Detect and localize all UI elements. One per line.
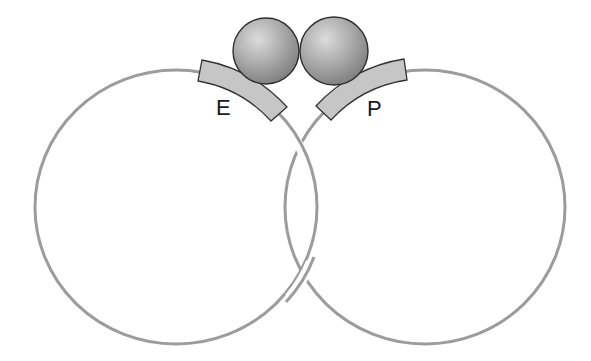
right-sphere <box>300 17 368 85</box>
label-e: E <box>216 95 231 120</box>
left-sphere <box>233 18 299 84</box>
label-p: P <box>367 96 382 121</box>
interlocked-rings-diagram: E P <box>0 0 591 361</box>
